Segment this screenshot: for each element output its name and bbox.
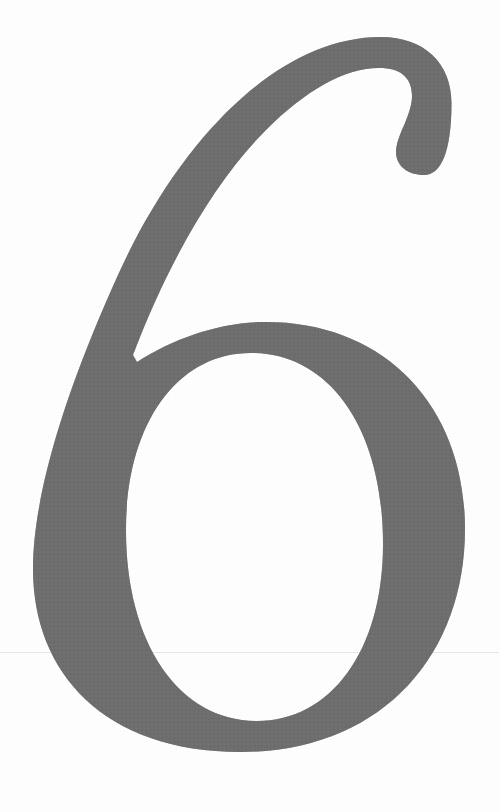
- numeral-six-glyph: [0, 0, 499, 812]
- glyph-ink-grain: [0, 0, 499, 812]
- glyph-layer: [0, 0, 499, 812]
- scanned-page: 6: [0, 0, 499, 812]
